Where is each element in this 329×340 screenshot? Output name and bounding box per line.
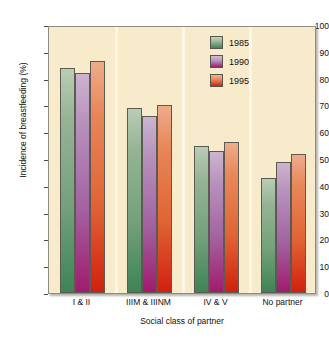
bar-1990-no-partner [276, 162, 291, 293]
legend-item-1985: 1985 [210, 36, 249, 49]
x-tick-label: IIIM & IIINM [126, 297, 171, 307]
x-tick-label: IV & V [203, 297, 227, 307]
bar-1995-i-ii [90, 61, 105, 293]
bar-1990-i-ii [75, 73, 90, 293]
legend-label: 1990 [229, 57, 249, 67]
y-axis-label: Incidence of breastfeeding (%) [18, 35, 28, 205]
legend-item-1995: 1995 [210, 74, 249, 87]
bar-1990-iv-v [209, 151, 224, 293]
bar-1995-iiim-iiinm [157, 105, 172, 293]
clipped-caption-strip: Figure 3 Incidence of breastfeeding by s… [0, 0, 329, 9]
legend-label: 1995 [229, 76, 249, 86]
bar-1990-iiim-iiinm [142, 116, 157, 293]
x-tick-label: No partner [262, 297, 302, 307]
legend-swatch-1995 [210, 74, 223, 87]
bar-1985-i-ii [60, 68, 75, 293]
group-separator [182, 27, 185, 293]
bar-1995-no-partner [291, 154, 306, 293]
bar-chart-figure: Incidence of breastfeeding (%) Social cl… [0, 9, 329, 340]
legend: 198519901995 [210, 36, 249, 87]
bar-1985-no-partner [261, 178, 276, 293]
plot-area [48, 26, 316, 294]
bar-1995-iv-v [224, 142, 239, 293]
legend-label: 1985 [229, 38, 249, 48]
bar-1985-iv-v [194, 146, 209, 293]
group-separator [115, 27, 118, 293]
y-tick-mark [44, 294, 48, 295]
legend-swatch-1985 [210, 36, 223, 49]
legend-item-1990: 1990 [210, 55, 249, 68]
x-axis-label: Social class of partner [48, 316, 316, 326]
bar-1985-iiim-iiinm [127, 108, 142, 293]
legend-swatch-1990 [210, 55, 223, 68]
x-tick-label: I & II [73, 297, 90, 307]
